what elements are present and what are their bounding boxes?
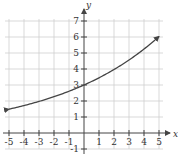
y-tick-label: 5 xyxy=(73,48,79,58)
x-tick-label: -4 xyxy=(20,137,29,147)
axes xyxy=(3,9,170,154)
y-tick-label: 1 xyxy=(73,112,79,122)
x-tick-label: 1 xyxy=(96,137,102,147)
y-tick-label: 7 xyxy=(73,16,79,26)
x-tick-label: 2 xyxy=(111,137,117,147)
y-tick-label: -1 xyxy=(70,144,79,154)
y-axis-label: y xyxy=(85,0,92,10)
x-axis-label: x xyxy=(173,129,178,139)
y-tick-label: 4 xyxy=(73,64,79,74)
y-tick-label: 6 xyxy=(73,32,79,42)
x-tick-label: -3 xyxy=(35,137,44,147)
chart: -5-4-3-2-112345-11234567 x y xyxy=(0,0,178,156)
x-tick-label: 4 xyxy=(141,137,147,147)
y-tick-label: 2 xyxy=(73,96,79,106)
x-tick-label: 3 xyxy=(126,137,132,147)
x-tick-label: -5 xyxy=(5,137,14,147)
x-tick-label: 5 xyxy=(156,137,162,147)
x-tick-label: -2 xyxy=(50,137,59,147)
